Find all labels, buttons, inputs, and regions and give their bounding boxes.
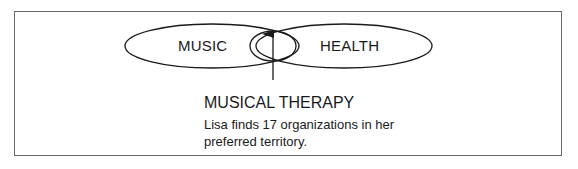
intersection-description: Lisa finds 17 organizations in her prefe… [204, 116, 444, 150]
intersection-title: MUSICAL THERAPY [204, 94, 354, 112]
health-label: HEALTH [320, 37, 379, 54]
music-label: MUSIC [178, 37, 227, 54]
